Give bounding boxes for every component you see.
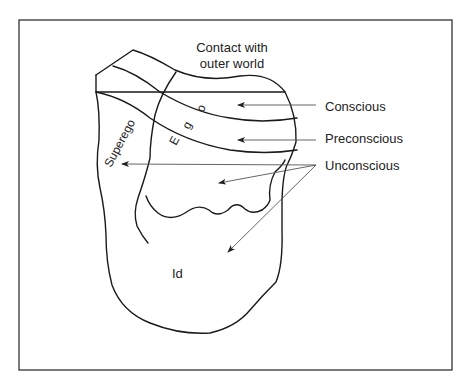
ego-letter-e: E bbox=[166, 134, 182, 148]
ego-letter-g: g bbox=[179, 119, 195, 131]
contact-label-line2: outer world bbox=[200, 56, 264, 71]
unconscious-label: Unconscious bbox=[325, 158, 400, 173]
mind-shape bbox=[96, 50, 297, 333]
conscious-label: Conscious bbox=[325, 99, 386, 114]
psyche-structure-diagram: Contact with outer world Superego E g o … bbox=[0, 0, 472, 388]
contact-label-line1: Contact with bbox=[196, 40, 268, 55]
id-label: Id bbox=[172, 266, 183, 281]
unconscious-wavy-line bbox=[146, 196, 262, 218]
diagram-frame bbox=[19, 20, 452, 370]
unconscious-arrow-ego bbox=[219, 165, 316, 183]
preconscious-label: Preconscious bbox=[325, 131, 404, 146]
ego-letter-o: o bbox=[193, 102, 209, 115]
superego-label: Superego bbox=[101, 117, 138, 170]
